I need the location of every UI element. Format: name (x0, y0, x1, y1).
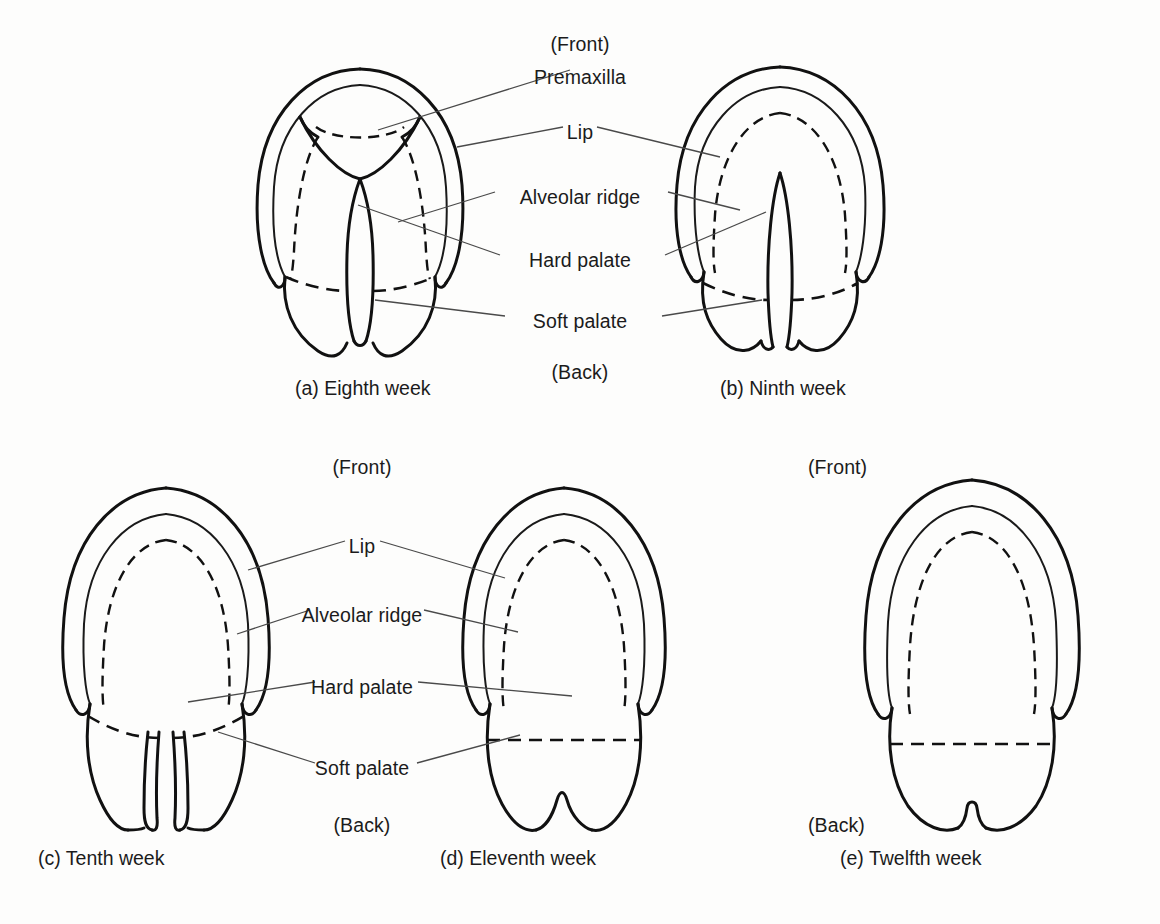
bottom-label-lip: Lip (349, 536, 375, 557)
caption-panel-b: (b) Ninth week (720, 377, 846, 400)
top-label-hard-palate: Hard palate (529, 250, 631, 271)
bottom-label-hard-palate: Hard palate (311, 677, 413, 698)
caption-panel-c: (c) Tenth week (38, 847, 164, 870)
palate-development-figure: (Front) Premaxilla Lip Alveolar ridge Ha… (0, 0, 1160, 924)
top-label-alveolar-ridge: Alveolar ridge (520, 187, 641, 208)
top-label-front: (Front) (550, 34, 609, 55)
panel-d-eleventh-week-drawing (440, 478, 690, 838)
panel-e-label-front: (Front) (808, 457, 867, 478)
panel-b-ninth-week-drawing (655, 55, 905, 365)
panel-e-label-back: (Back) (808, 815, 865, 836)
panel-e-twelfth-week-drawing (840, 470, 1110, 840)
panel-a-eighth-week-drawing (230, 55, 490, 365)
top-label-premaxilla: Premaxilla (534, 67, 626, 88)
top-label-soft-palate: Soft palate (533, 311, 627, 332)
caption-panel-e: (e) Twelfth week (840, 847, 982, 870)
bottom-label-front: (Front) (332, 457, 391, 478)
panel-c-tenth-week-drawing (38, 478, 298, 838)
bottom-label-soft-palate: Soft palate (315, 758, 409, 779)
top-label-back: (Back) (552, 362, 609, 383)
caption-panel-d: (d) Eleventh week (440, 847, 596, 870)
bottom-label-back: (Back) (334, 815, 391, 836)
caption-panel-a: (a) Eighth week (295, 377, 430, 400)
bottom-label-alveolar-ridge: Alveolar ridge (302, 605, 423, 626)
top-label-lip: Lip (567, 122, 593, 143)
